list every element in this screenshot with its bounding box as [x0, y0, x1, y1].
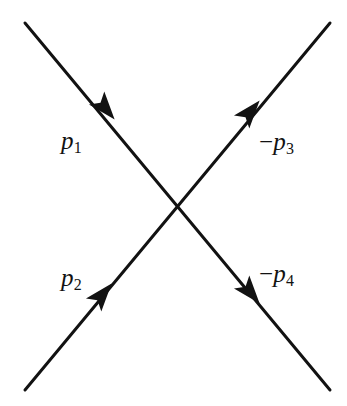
momentum-sign-p4: − [259, 260, 273, 287]
momentum-symbol-p2: p [61, 264, 74, 291]
momentum-subscript-p1: 1 [74, 139, 82, 156]
momentum-label-p4: −p4 [259, 261, 294, 286]
momentum-symbol-p1: p [61, 127, 74, 154]
momentum-subscript-p3: 3 [286, 140, 294, 157]
momentum-subscript-p4: 4 [286, 272, 294, 289]
momentum-label-p3: −p3 [259, 129, 294, 154]
momentum-subscript-p2: 2 [74, 276, 82, 293]
diagram-canvas [0, 0, 347, 406]
scattering-diagram: p1 −p3 p2 −p4 [0, 0, 347, 406]
momentum-sign-p3: − [259, 128, 273, 155]
momentum-symbol-p4: p [273, 260, 286, 287]
momentum-symbol-p3: p [273, 128, 286, 155]
momentum-label-p1: p1 [61, 128, 82, 153]
momentum-label-p2: p2 [61, 265, 82, 290]
